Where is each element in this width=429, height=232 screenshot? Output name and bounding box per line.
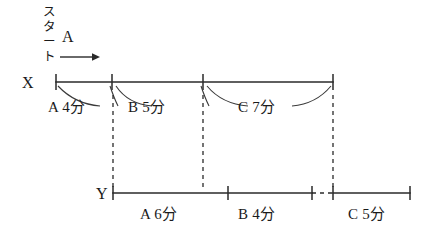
segment-label-x-1: B 5分 — [128, 99, 165, 115]
right-arrow-icon — [60, 53, 100, 61]
segment-label-x-0: A 4分 — [48, 99, 85, 115]
brace-x-seg-0-right — [110, 86, 118, 106]
axis-label-x: X — [22, 74, 34, 91]
segment-label-y-1: B 4分 — [238, 206, 275, 222]
segment-label-y-0: A 6分 — [140, 206, 177, 222]
segment-label-x-2: C 7分 — [238, 99, 275, 115]
route-timeline-figure: A X A 4分 B 5分 C 7分 Y — [0, 0, 429, 232]
diagram-root: ス タ ー ト A X A 4分 B 5分 C 7分 Y — [0, 0, 429, 232]
brace-x-seg-2-right — [292, 86, 331, 106]
direction-label: A — [62, 28, 74, 45]
brace-x-seg-1-right — [201, 86, 209, 106]
axis-label-y: Y — [96, 185, 108, 202]
segment-label-y-2: C 5分 — [348, 206, 385, 222]
